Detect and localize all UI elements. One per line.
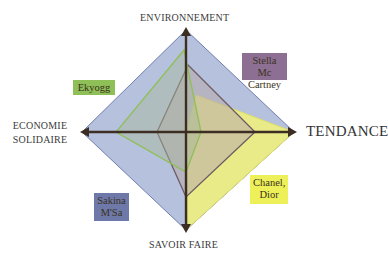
axis-label-economie-solidaire: ECONOMIE SOLIDAIRE <box>0 119 80 147</box>
axis-label-economie-line1: ECONOMIE <box>0 119 80 133</box>
axis-label-environnement: ENVIRONNEMENT <box>140 11 229 25</box>
axis-label-tendance: TENDANCE <box>306 124 388 138</box>
legend-sakina-line2: M'Sa <box>97 207 126 219</box>
legend-sakina-line1: Sakina <box>97 195 126 207</box>
legend-sakina-msa: Sakina M'Sa <box>94 193 129 221</box>
arrow-right-icon <box>288 127 297 137</box>
axis-label-economie-line2: SOLIDAIRE <box>0 133 80 147</box>
legend-chanel-line2: Dior <box>253 189 285 201</box>
legend-chanel-line1: Chanel, <box>253 177 285 189</box>
arrow-left-icon <box>80 127 89 137</box>
legend-stella-mccartney: Stella Mc Cartney <box>242 53 287 80</box>
arrow-down-icon <box>181 224 191 233</box>
legend-ekyogg-label: Ekyogg <box>78 82 111 93</box>
arrow-up-icon <box>181 27 191 36</box>
legend-stella-line1: Stella Mc <box>245 55 284 79</box>
legend-chanel-dior: Chanel, Dior <box>250 175 288 204</box>
axis-label-savoir-faire: SAVOIR FAIRE <box>149 238 218 252</box>
legend-stella-line2: Cartney <box>245 79 284 91</box>
legend-ekyogg: Ekyogg <box>73 80 115 95</box>
